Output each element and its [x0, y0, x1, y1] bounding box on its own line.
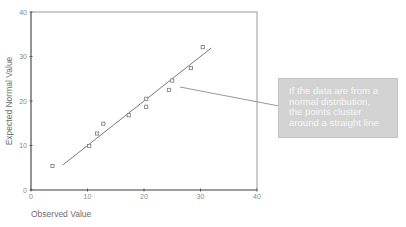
x-tick-label: 0 [29, 193, 33, 200]
y-tick-label: 20 [19, 98, 27, 105]
data-point [145, 105, 148, 108]
data-point [201, 46, 204, 49]
y-tick-label: 0 [23, 187, 27, 194]
annotation-line: If the data are from a [289, 86, 397, 97]
data-point [127, 114, 130, 117]
data-point [102, 122, 105, 125]
y-tick-label: 10 [19, 142, 27, 149]
y-tick-label: 40 [19, 9, 27, 16]
y-tick-label: 30 [19, 53, 27, 60]
data-point [167, 88, 170, 91]
data-point [88, 144, 91, 147]
x-axis-title: Observed Value [31, 209, 92, 219]
data-point [96, 132, 99, 135]
y-axis-title: Expected Normal Value [4, 56, 14, 145]
reference-line [63, 48, 212, 165]
annotation-pointer-line [180, 87, 279, 106]
annotation-line: around a straight line [289, 118, 397, 129]
annotation-box: If the data are from a normal distributi… [278, 78, 398, 138]
data-point [145, 97, 148, 100]
data-point [51, 164, 54, 167]
data-point [171, 79, 174, 82]
x-tick-label: 20 [140, 193, 148, 200]
x-tick-label: 40 [253, 193, 261, 200]
x-tick-label: 10 [84, 193, 92, 200]
data-point [189, 66, 192, 69]
x-tick-label: 30 [197, 193, 205, 200]
